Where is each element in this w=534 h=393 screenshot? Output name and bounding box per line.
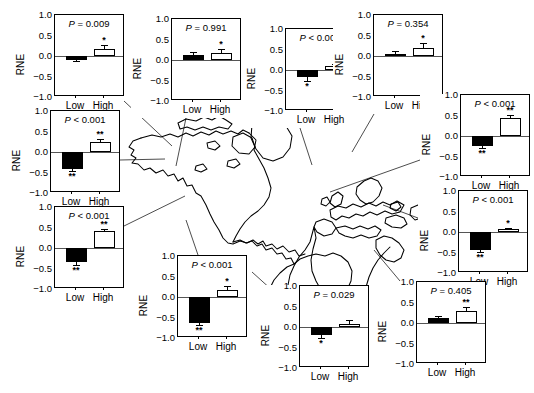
- y-axis-ticks: 1.00.50.0−0.5−1.0: [28, 14, 54, 114]
- zero-line: [172, 60, 240, 61]
- x-axis-labels: LowHigh: [285, 112, 355, 128]
- error-bar-cap: [507, 115, 514, 116]
- y-axis-label: RNE: [10, 110, 24, 210]
- zero-line: [374, 56, 442, 57]
- leader-panel-4: [352, 114, 374, 152]
- p-value-annotation: P < 0.001: [51, 114, 119, 125]
- bar-chart-panel-7: RNE1.00.50.0−0.5−1.0P = 0.405**LowHigh: [376, 281, 486, 381]
- error-bar-cap: [392, 51, 399, 52]
- significance-marker: **: [68, 173, 75, 179]
- y-tick-label: 0.5: [284, 301, 297, 310]
- x-axis-tick: [509, 175, 510, 178]
- y-tick-label: 1.0: [445, 90, 458, 99]
- y-axis-label: RNE: [376, 281, 390, 381]
- y-tick-label: −0.5: [278, 342, 297, 351]
- significance-marker: **: [100, 221, 107, 227]
- y-tick-label: 0.5: [39, 30, 52, 39]
- x-tick-label-high: High: [455, 367, 476, 378]
- y-tick-label: 0.5: [35, 126, 48, 135]
- y-tick-label: −0.5: [264, 85, 283, 94]
- plot-area: P < 0.001***: [458, 190, 528, 272]
- x-axis-labels: LowHigh: [177, 339, 247, 355]
- y-axis-ticks: 1.00.50.0−0.5−1.0: [259, 28, 285, 128]
- y-axis-ticks: 1.00.50.0−0.5−1.0: [24, 110, 50, 210]
- leader-panel-6: [383, 205, 418, 218]
- y-tick-label: 1.0: [39, 202, 52, 211]
- y-tick-label: 0.5: [39, 222, 52, 231]
- significance-marker: *: [421, 35, 425, 41]
- y-axis-label: RNE: [259, 285, 273, 385]
- bar-low: [385, 54, 406, 56]
- y-tick-label: −0.5: [439, 151, 458, 160]
- error-bar-cap: [224, 286, 231, 287]
- y-tick-label: 0.0: [156, 55, 169, 64]
- x-axis-tick: [71, 191, 72, 194]
- x-axis-tick: [465, 362, 466, 365]
- y-tick-label: −0.5: [156, 312, 175, 321]
- y-axis-ticks: 1.00.50.0−0.5−1.0: [28, 206, 54, 306]
- x-tick-label-low: Low: [385, 100, 403, 111]
- p-value-annotation: P = 0.354: [374, 18, 442, 29]
- bar-high: [211, 53, 232, 60]
- y-axis-ticks: 1.00.50.0−0.5−1.0: [432, 190, 458, 290]
- x-axis-labels: LowHigh: [171, 102, 241, 118]
- map-island-small-1: [207, 141, 220, 150]
- y-tick-label: −0.5: [395, 338, 414, 347]
- x-axis-labels: LowHigh: [416, 365, 486, 381]
- error-bar-cap: [101, 229, 108, 230]
- bar-low: [297, 70, 318, 77]
- x-tick-label-low: Low: [183, 104, 201, 115]
- y-tick-label: −0.5: [150, 75, 169, 84]
- bar-high: [498, 229, 519, 232]
- x-axis-tick: [103, 287, 104, 290]
- significance-marker: *: [219, 41, 223, 47]
- x-axis-tick: [226, 336, 227, 339]
- bar-low: [472, 136, 493, 146]
- bar-low: [470, 232, 491, 250]
- error-bar-cap: [420, 43, 427, 44]
- x-tick-label-low: Low: [297, 114, 315, 125]
- x-tick-label-high: High: [338, 371, 359, 382]
- x-axis-tick: [75, 95, 76, 98]
- plot-area: P < 0.001****: [460, 94, 530, 176]
- x-tick-label-low: Low: [311, 371, 329, 382]
- y-tick-label: 1.0: [156, 14, 169, 23]
- figure-root: RNE1.00.50.0−0.5−1.0P = 0.009*LowHighRNE…: [0, 0, 534, 393]
- bar-high: [500, 118, 521, 136]
- map-island-ireland: [321, 197, 330, 206]
- bar-high: [217, 290, 238, 297]
- plot-area: P = 0.029*: [299, 285, 369, 367]
- y-tick-label: 0.0: [443, 227, 456, 236]
- p-value-annotation: P = 0.029: [300, 289, 368, 300]
- bar-low: [428, 318, 449, 323]
- y-axis-label: RNE: [137, 255, 151, 355]
- plot-area: P = 0.991*: [171, 18, 241, 100]
- x-axis-tick: [192, 99, 193, 102]
- x-axis-tick: [99, 191, 100, 194]
- x-tick-label-high: High: [210, 104, 231, 115]
- y-tick-label: −1.0: [156, 333, 175, 342]
- x-axis-tick: [481, 175, 482, 178]
- error-bar-cap: [101, 45, 108, 46]
- y-tick-label: 0.0: [401, 318, 414, 327]
- map-island-small-2: [227, 159, 240, 168]
- y-tick-label: 1.0: [358, 10, 371, 19]
- map-island-med: [390, 202, 401, 211]
- error-bar-cap: [435, 316, 442, 317]
- x-tick-label-high: High: [93, 292, 114, 303]
- error-bar-cap: [97, 139, 104, 140]
- significance-marker: **: [476, 254, 483, 260]
- y-tick-label: 0.0: [284, 322, 297, 331]
- bar-low: [183, 55, 204, 60]
- bar-chart-panel-9: RNE1.00.50.0−0.5−1.0P < 0.001***LowHigh: [137, 255, 247, 355]
- y-tick-label: −1.0: [150, 96, 169, 105]
- error-bar-cap: [505, 228, 512, 229]
- x-axis-tick: [507, 271, 508, 274]
- significance-marker: **: [72, 267, 79, 273]
- bar-low: [66, 248, 87, 262]
- map-arctic-islands: [178, 116, 232, 130]
- y-axis-label: RNE: [14, 14, 28, 114]
- x-axis-labels: LowHigh: [54, 290, 124, 306]
- plot-area: P < 0.001****: [54, 206, 124, 288]
- y-tick-label: 0.5: [358, 30, 371, 39]
